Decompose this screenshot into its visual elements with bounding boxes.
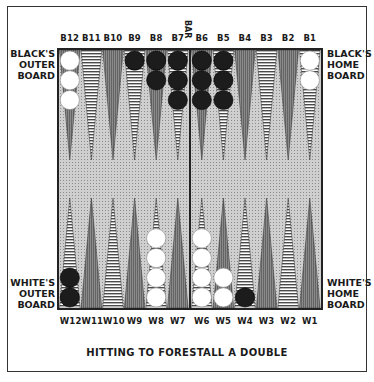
white-checker[interactable]: [192, 268, 211, 287]
point-label-b6: B6: [192, 33, 212, 43]
label-line: WHITE'S: [9, 277, 55, 288]
label-line: BOARD: [327, 299, 372, 310]
point-label-b12: B12: [60, 33, 80, 43]
label-line: OUTER: [9, 59, 55, 70]
point-b4[interactable]: [235, 50, 256, 160]
label-line: OUTER: [9, 288, 55, 299]
point-label-b7: B7: [168, 33, 188, 43]
point-b11[interactable]: [81, 50, 102, 160]
white-checker[interactable]: [300, 51, 319, 70]
label-line: BLACK'S: [327, 48, 372, 59]
white-checker[interactable]: [192, 229, 211, 248]
black-checker[interactable]: [192, 90, 211, 109]
white-checker[interactable]: [192, 248, 211, 267]
black-checker[interactable]: [147, 71, 166, 90]
black-checker[interactable]: [168, 71, 187, 90]
point-w3[interactable]: [256, 198, 277, 308]
point-label-w3: W3: [257, 316, 277, 326]
point-label-w1: W1: [300, 316, 320, 326]
label-line: WHITE'S: [327, 277, 372, 288]
white-checker[interactable]: [147, 229, 166, 248]
label-line: BOARD: [327, 70, 372, 81]
white-checker[interactable]: [147, 248, 166, 267]
black-checker[interactable]: [214, 51, 233, 70]
point-label-w2: W2: [278, 316, 298, 326]
black-checker[interactable]: [60, 268, 79, 287]
point-b3[interactable]: [256, 50, 277, 160]
label-line: HOME: [327, 288, 372, 299]
point-label-w7: W7: [168, 316, 188, 326]
point-w2[interactable]: [278, 198, 299, 308]
point-label-w4: W4: [235, 316, 255, 326]
label-line: BOARD: [9, 299, 55, 310]
point-label-w11: W11: [81, 316, 101, 326]
point-b2[interactable]: [278, 50, 299, 160]
white-checker[interactable]: [147, 288, 166, 307]
point-label-b8: B8: [146, 33, 166, 43]
point-label-w8: W8: [146, 316, 166, 326]
point-label-b11: B11: [81, 33, 101, 43]
backgammon-board: [57, 48, 323, 310]
white-checker[interactable]: [60, 51, 79, 70]
black-checker[interactable]: [214, 90, 233, 109]
black-checker[interactable]: [168, 51, 187, 70]
black-checker[interactable]: [60, 288, 79, 307]
point-b10[interactable]: [103, 50, 124, 160]
point-label-b9: B9: [125, 33, 145, 43]
point-label-w10: W10: [103, 316, 123, 326]
white-checker[interactable]: [300, 71, 319, 90]
black-checker[interactable]: [235, 288, 254, 307]
black-checker[interactable]: [147, 51, 166, 70]
white-checker[interactable]: [147, 268, 166, 287]
point-w10[interactable]: [103, 198, 124, 308]
point-label-b4: B4: [235, 33, 255, 43]
white-checker[interactable]: [60, 90, 79, 109]
point-label-w5: W5: [213, 316, 233, 326]
label-line: BLACK'S: [9, 48, 55, 59]
point-label-b10: B10: [103, 33, 123, 43]
point-label-b2: B2: [278, 33, 298, 43]
label-line: HOME: [327, 59, 372, 70]
white-checker[interactable]: [192, 288, 211, 307]
white-checker[interactable]: [60, 71, 79, 90]
black-checker[interactable]: [214, 71, 233, 90]
black-checker[interactable]: [192, 71, 211, 90]
black-outer-board-label: BLACK'S OUTER BOARD: [9, 48, 55, 81]
point-w11[interactable]: [81, 198, 102, 308]
point-label-w6: W6: [192, 316, 212, 326]
point-label-w12: W12: [60, 316, 80, 326]
label-line: BOARD: [9, 70, 55, 81]
point-w9[interactable]: [124, 198, 145, 308]
point-label-b1: B1: [300, 33, 320, 43]
bar-divider: [189, 50, 191, 308]
white-home-board-label: WHITE'S HOME BOARD: [327, 277, 372, 310]
black-checker[interactable]: [192, 51, 211, 70]
point-w7[interactable]: [168, 198, 189, 308]
white-checker[interactable]: [214, 268, 233, 287]
point-label-b3: B3: [257, 33, 277, 43]
white-outer-board-label: WHITE'S OUTER BOARD: [9, 277, 55, 310]
point-label-w9: W9: [125, 316, 145, 326]
point-label-b5: B5: [213, 33, 233, 43]
point-w1[interactable]: [300, 198, 321, 308]
white-checker[interactable]: [214, 288, 233, 307]
black-home-board-label: BLACK'S HOME BOARD: [327, 48, 372, 81]
black-checker[interactable]: [168, 90, 187, 109]
diagram-caption: HITTING TO FORESTALL A DOUBLE: [0, 347, 374, 358]
black-checker[interactable]: [125, 51, 144, 70]
